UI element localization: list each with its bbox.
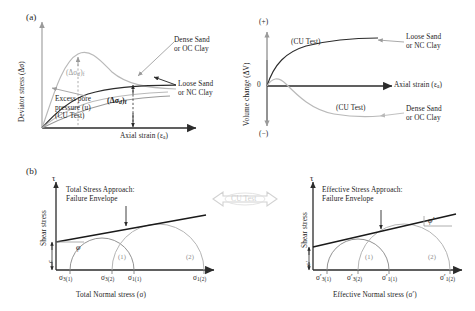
plateau-sigma: (Δσ bbox=[107, 96, 119, 105]
tick-label-sigma3-2-effective: σ′3(2) bbox=[347, 274, 362, 283]
phi-symbol-total: φ bbox=[76, 243, 81, 252]
tick-label-sigma1-2-effective: σ′1(2) bbox=[440, 274, 455, 283]
leader-loose-sand bbox=[154, 77, 176, 85]
panel-b-label: (b) bbox=[26, 166, 37, 177]
eff-env-line2: Failure Envelope bbox=[322, 194, 374, 203]
axial-strain-close: ) bbox=[166, 131, 169, 140]
axis-label-total-normal-stress: Total Normal stress (σ) bbox=[76, 291, 146, 300]
axis-label-shear-stress-effective: Shear stress bbox=[301, 212, 310, 248]
e3p: (2) bbox=[449, 276, 456, 282]
loose-line2: or NC Clay bbox=[178, 88, 213, 97]
cu-test-upper-label: (CU Test) bbox=[291, 38, 321, 47]
cohesion-label-total: c bbox=[46, 260, 54, 263]
loose-v-line2: or NC Clay bbox=[406, 41, 441, 50]
triaxial-test-figure bbox=[0, 0, 475, 311]
panel-a-label: (a) bbox=[26, 12, 37, 23]
axis-label-shear-stress-total: Shear stress bbox=[40, 210, 49, 246]
axial-strain-v-text: Axial strain (ε bbox=[394, 80, 437, 89]
cu-test-lower-label: (CU Test) bbox=[336, 104, 366, 113]
mohr-circle-2-label-total: (2) bbox=[186, 253, 194, 261]
curve-volume-loose-sand-nc-clay bbox=[267, 38, 378, 86]
tau-symbol-effective: τ bbox=[310, 174, 313, 184]
mohr-circle-1-label-effective: (1) bbox=[365, 253, 373, 261]
tau-symbol-total: τ bbox=[52, 174, 55, 184]
tick-label-sigma1-1-effective: σ′1(1) bbox=[382, 274, 397, 283]
plateau-sub-f: f bbox=[125, 99, 127, 105]
volume-zero-tick: 0 bbox=[257, 81, 261, 90]
dense-v-line2: or OC Clay bbox=[406, 113, 441, 122]
loose-sand-label-a: Loose Sand or NC Clay bbox=[178, 80, 213, 97]
peak-sigma: (Δσ bbox=[66, 68, 77, 77]
t3p: (2) bbox=[200, 276, 207, 282]
dense-line2: or OC Clay bbox=[174, 44, 209, 53]
failure-envelope-total bbox=[56, 215, 206, 242]
volume-negative-sign: (−) bbox=[259, 130, 268, 139]
leader-volume-dense-sand bbox=[380, 113, 404, 116]
t2p: (1) bbox=[135, 276, 142, 282]
failure-envelope-effective bbox=[313, 214, 456, 247]
peak-deviator-stress-label: (Δσd)f bbox=[66, 69, 85, 78]
t0p: (1) bbox=[66, 276, 73, 282]
failure-deviator-stress-label: (Δσd)f bbox=[107, 96, 127, 106]
axis-label-axial-strain-a: Axial strain (εa) bbox=[120, 132, 168, 141]
mohr-circle-2-label-effective: (2) bbox=[428, 253, 436, 261]
mohr-circle-2-effective bbox=[358, 224, 450, 270]
mohr-circle-1-label-total: (1) bbox=[118, 253, 126, 261]
axis-label-volume-change: Volume change (ΔV) bbox=[243, 63, 252, 127]
cohesion-label-effective: c′ bbox=[304, 261, 312, 266]
t1p: (2) bbox=[108, 276, 115, 282]
leader-volume-loose-sand bbox=[378, 40, 404, 42]
tick-label-sigma3-2-total: σ3(2) bbox=[101, 274, 114, 283]
axis-label-axial-strain-volume: Axial strain (εa) bbox=[394, 81, 442, 90]
phi-symbol-effective: φ′ bbox=[428, 216, 434, 225]
excess-pore-pressure-label: Excess pore pressure (u) (CU Test) bbox=[55, 95, 91, 121]
dense-sand-label-a: Dense Sand or OC Clay bbox=[174, 36, 210, 53]
leader-dense-sand bbox=[138, 42, 174, 76]
axial-strain-text: Axial strain (ε bbox=[120, 131, 163, 140]
peak-sub-f: f bbox=[83, 71, 85, 77]
e2p: (1) bbox=[391, 276, 398, 282]
total-stress-envelope-label: Total Stress Approach: Failure Envelope bbox=[66, 186, 135, 203]
volume-positive-sign: (+) bbox=[259, 18, 268, 27]
axial-strain-v-close: ) bbox=[440, 80, 443, 89]
tick-label-sigma3-1-total: σ3(1) bbox=[59, 274, 72, 283]
tick-label-sigma1-1-total: σ1(1) bbox=[128, 274, 141, 283]
cu-test-banner-label: CU Test bbox=[231, 195, 257, 204]
axis-label-deviator-stress: Deviator stress (Δσ) bbox=[18, 61, 27, 122]
tick-label-sigma1-2-total: σ1(2) bbox=[193, 274, 206, 283]
pore-line3: (CU Test) bbox=[55, 111, 85, 120]
tick-label-sigma3-1-effective: σ′3(1) bbox=[316, 274, 331, 283]
e0p: (1) bbox=[325, 276, 332, 282]
e1p: (2) bbox=[356, 276, 363, 282]
mohr-circle-2-total bbox=[112, 224, 204, 270]
axis-label-effective-normal-stress: Effective Normal stress (σ′) bbox=[333, 291, 417, 300]
loose-sand-label-volume: Loose Sand or NC Clay bbox=[406, 33, 441, 50]
total-env-line2: Failure Envelope bbox=[66, 194, 118, 203]
effective-stress-envelope-label: Effective Stress Approach: Failure Envel… bbox=[322, 186, 403, 203]
dense-sand-label-volume: Dense Sand or OC Clay bbox=[406, 105, 442, 122]
